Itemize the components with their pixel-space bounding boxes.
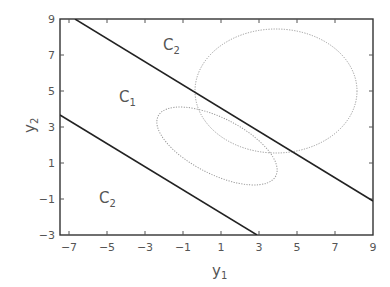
x-tick-label: 7 (332, 241, 339, 254)
x-tick-labels: −7 −5 −3 −1 1 3 5 7 9 (61, 241, 377, 254)
y-tick-label: −1 (39, 193, 55, 206)
region-label-c2-top: C2 (163, 36, 180, 56)
x-tick-label: 5 (294, 241, 301, 254)
x-tick-label: 9 (370, 241, 377, 254)
y-tick-labels: 9 7 5 3 1 −1 −3 (39, 13, 55, 242)
decision-boundary-chart: −7 −5 −3 −1 1 3 5 7 9 9 7 5 3 1 −1 −3 y1… (0, 0, 390, 287)
y-tick-label: 5 (48, 85, 55, 98)
y-tick-label: 1 (48, 157, 55, 170)
x-tick-label: −1 (175, 241, 191, 254)
region-label-c2-bottom: C2 (99, 189, 116, 209)
y-tick-label: −3 (39, 229, 55, 242)
small-class-ellipse (145, 91, 288, 201)
y-tick-label: 7 (48, 49, 55, 62)
x-tick-label: 3 (256, 241, 263, 254)
large-class-ellipse (195, 29, 357, 153)
x-axis-label: y1 (212, 262, 227, 281)
x-tick-label: −7 (61, 241, 77, 254)
lower-decision-boundary (60, 115, 257, 235)
x-tick-label: 1 (218, 241, 225, 254)
y-tick-label: 3 (48, 121, 55, 134)
upper-decision-boundary (75, 19, 373, 201)
y-axis-label: y2 (21, 118, 40, 133)
region-label-c1: C1 (119, 88, 136, 108)
y-tick-label: 9 (48, 13, 55, 26)
x-tick-label: −3 (137, 241, 153, 254)
x-tick-label: −5 (99, 241, 115, 254)
y-axis-ticks (60, 55, 373, 199)
